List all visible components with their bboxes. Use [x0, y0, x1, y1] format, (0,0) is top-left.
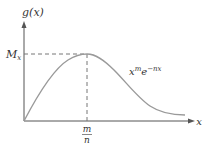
max-label: Mx	[5, 48, 21, 62]
peak-x-numerator: m	[83, 124, 92, 134]
y-axis-label: g(x)	[22, 6, 44, 19]
x-axis-label: x	[196, 116, 202, 127]
peak-x-denominator: n	[84, 135, 90, 145]
x-axis-arrow-icon	[188, 119, 195, 124]
y-axis-arrow-icon	[22, 21, 27, 28]
graph: g(x) Mx x m n xme−nx	[0, 0, 206, 148]
curve-label: xme−nx	[129, 65, 162, 77]
